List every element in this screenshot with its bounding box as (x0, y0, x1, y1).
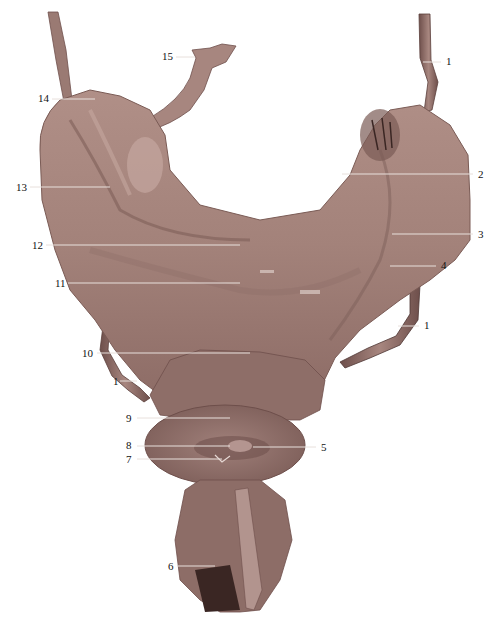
label-11: 11 (55, 278, 66, 289)
label-9: 9 (126, 413, 132, 424)
label-14: 14 (38, 93, 49, 104)
specimen-figure: 12341567891011112131415 (0, 0, 499, 635)
label-3: 3 (478, 229, 484, 240)
label-10: 10 (82, 348, 93, 359)
label-12: 12 (32, 240, 43, 251)
label-1c: 1 (113, 376, 119, 387)
label-13: 13 (16, 182, 27, 193)
label-6: 6 (168, 561, 174, 572)
label-2: 2 (478, 169, 484, 180)
label-4: 4 (441, 260, 447, 271)
label-1b: 1 (424, 320, 430, 331)
label-8: 8 (126, 440, 132, 451)
label-7: 7 (126, 454, 132, 465)
leader-lines (0, 0, 499, 635)
label-15: 15 (162, 51, 173, 62)
label-1a: 1 (446, 56, 452, 67)
label-5: 5 (321, 442, 327, 453)
